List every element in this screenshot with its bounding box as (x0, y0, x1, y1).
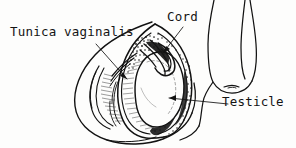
illustration-canvas (0, 0, 296, 148)
label-tunica-vaginalis: Tunica vaginalis (10, 26, 134, 39)
anatomical-figure: Tunica vaginalis Cord Testicle (0, 0, 296, 148)
label-cord: Cord (167, 11, 198, 24)
label-testicle: Testicle (222, 96, 284, 109)
testicle-body (135, 52, 184, 127)
penis-outline (208, 0, 256, 93)
